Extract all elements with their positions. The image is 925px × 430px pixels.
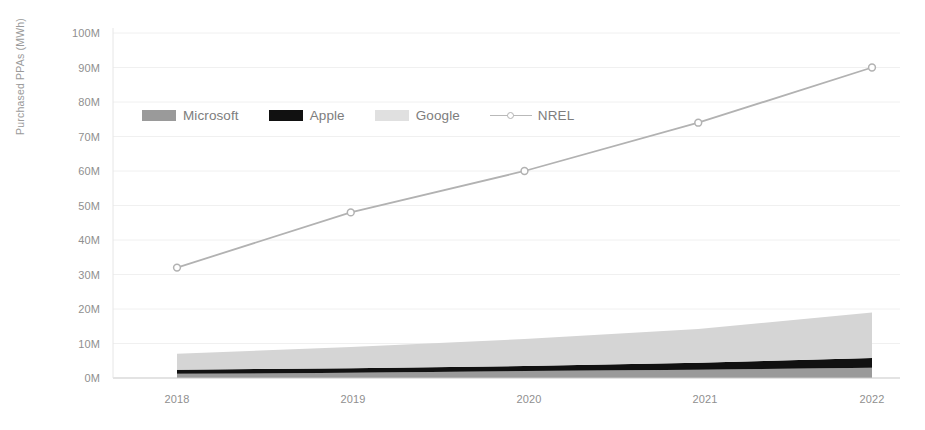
legend-item-google[interactable]: Google [375,108,460,123]
legend-item-microsoft[interactable]: Microsoft [142,108,239,123]
chart-legend: Microsoft Apple Google NREL [142,108,604,123]
legend-swatch-icon-microsoft [142,110,176,121]
x-axis-tick-2021: 2021 [693,393,718,405]
legend-label-apple: Apple [310,108,345,123]
x-axis-tick-2018: 2018 [165,393,190,405]
legend-swatch-icon-google [375,110,409,121]
legend-label-nrel: NREL [538,108,574,123]
chart-container: Purchased PPAs (MWh) 100M 90M 80M 70M 60… [0,0,925,430]
x-axis-tick-2022: 2022 [860,393,885,405]
legend-line-marker-icon-nrel [490,110,532,121]
legend-label-microsoft: Microsoft [183,108,239,123]
legend-swatch-icon-apple [269,110,303,121]
x-axis-tick-2020: 2020 [517,393,542,405]
legend-item-apple[interactable]: Apple [269,108,345,123]
legend-label-google: Google [416,108,460,123]
legend-item-nrel[interactable]: NREL [490,108,574,123]
x-axis-tick-labels: 2018 2019 2020 2021 2022 [0,0,925,430]
x-axis-tick-2019: 2019 [341,393,366,405]
